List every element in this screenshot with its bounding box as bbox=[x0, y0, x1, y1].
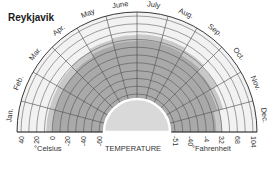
celsius-tick: 20 bbox=[33, 136, 40, 144]
radial-temperature-chart: Reykjavik Jan.Feb.Mar.Apr.MayJuneJulyAug… bbox=[0, 0, 270, 171]
month-label: Feb. bbox=[11, 74, 25, 91]
fahrenheit-tick: -4 bbox=[203, 136, 210, 142]
month-label: Nov. bbox=[249, 74, 263, 91]
fahrenheit-tick: 104 bbox=[250, 136, 257, 148]
month-label: Dec. bbox=[259, 107, 270, 123]
celsius-tick: 0 bbox=[49, 136, 56, 140]
celsius-tick: -40 bbox=[80, 136, 87, 146]
month-label: Oct. bbox=[231, 46, 247, 62]
celsius-tick: -60 bbox=[96, 136, 103, 146]
month-label: July bbox=[147, 0, 162, 10]
month-label: May bbox=[80, 6, 97, 20]
month-label: June bbox=[112, 0, 129, 10]
celsius-tick: 40 bbox=[18, 136, 25, 144]
month-label: Apr. bbox=[51, 22, 67, 37]
month-label: Jan. bbox=[4, 108, 15, 123]
month-label: Aug. bbox=[177, 6, 195, 20]
fahrenheit-tick: -51 bbox=[172, 136, 179, 146]
fahrenheit-axis-label: °Fahrenheit bbox=[192, 144, 232, 153]
fahrenheit-tick: 68 bbox=[234, 136, 241, 144]
chart-title: Reykjavik bbox=[8, 12, 55, 23]
celsius-axis-label: °Celsius bbox=[34, 144, 62, 153]
fahrenheit-tick: 32 bbox=[218, 136, 225, 144]
center-label: TEMPERATURE bbox=[105, 144, 161, 153]
celsius-tick: -20 bbox=[64, 136, 71, 146]
